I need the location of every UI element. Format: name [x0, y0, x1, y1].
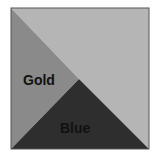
label-gold: Gold: [23, 72, 55, 88]
label-blue: Blue: [60, 120, 91, 136]
diagram-figure: Gold Blue: [0, 0, 156, 157]
square-diagram: Gold Blue: [0, 0, 156, 157]
